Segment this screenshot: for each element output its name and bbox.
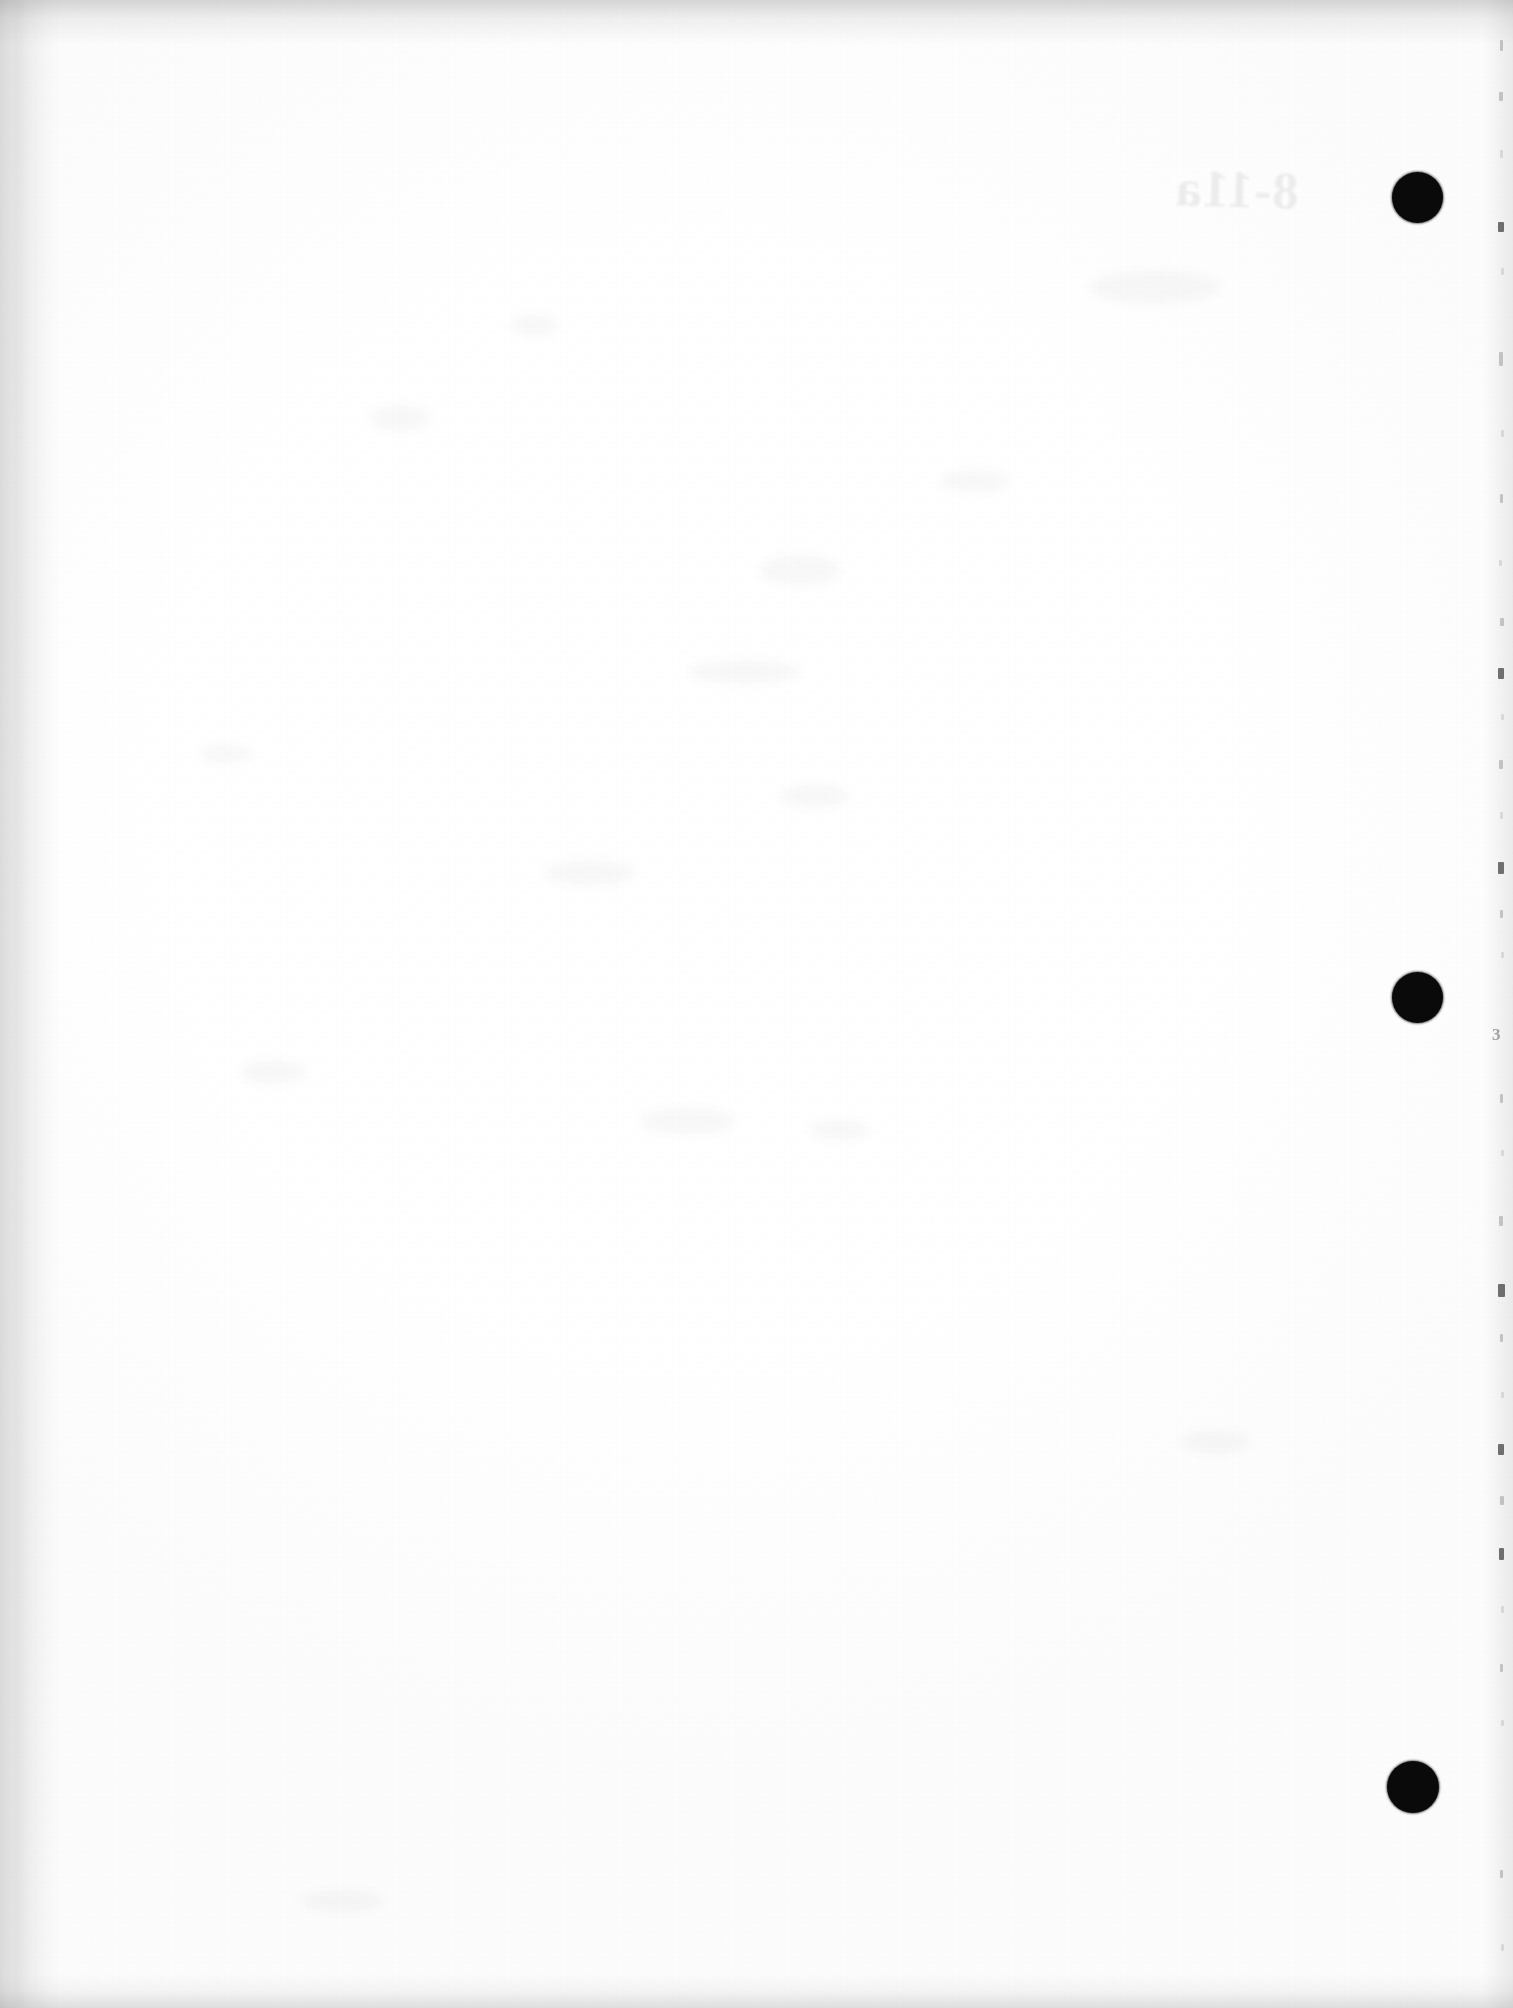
scan-speck-artifact xyxy=(1501,1606,1504,1613)
scan-speck-artifact xyxy=(1501,1392,1504,1398)
scan-speck-artifact xyxy=(1499,1548,1504,1560)
scan-speck-artifact xyxy=(1500,910,1503,918)
scan-speck-artifact xyxy=(1501,952,1504,958)
scan-speck-artifact xyxy=(1500,1870,1503,1878)
scan-speck-artifact xyxy=(1499,760,1503,769)
scan-speck-artifact xyxy=(1500,150,1503,158)
scan-speck-artifact xyxy=(1501,268,1504,275)
scan-speck-artifact xyxy=(1499,92,1503,101)
punch-mark-top xyxy=(1392,172,1443,223)
scan-speck-artifact xyxy=(1501,1150,1504,1156)
scan-speck-artifact xyxy=(1499,560,1502,566)
scan-speck-artifact xyxy=(1501,714,1504,720)
scanned-page: 8-11a 3 xyxy=(0,0,1513,2008)
scan-speck-artifact xyxy=(1501,1720,1504,1726)
scan-speck-artifact xyxy=(1501,1944,1504,1951)
scan-speck-artifact xyxy=(1500,618,1504,626)
margin-page-number: 3 xyxy=(1492,1025,1501,1045)
scan-speck-artifact xyxy=(1499,1216,1503,1226)
scan-speck-artifact xyxy=(1500,494,1503,503)
scan-speck-artifact xyxy=(1498,222,1504,232)
scan-speck-artifact xyxy=(1500,1334,1503,1342)
scan-speck-artifact xyxy=(1500,40,1503,51)
scan-speck-artifact xyxy=(1499,352,1503,366)
scan-speck-artifact xyxy=(1501,430,1504,437)
scan-speck-artifact xyxy=(1500,1664,1503,1672)
scan-speck-artifact xyxy=(1500,812,1503,819)
punch-mark-middle xyxy=(1392,972,1443,1023)
scan-speck-artifact xyxy=(1498,862,1504,874)
scan-speck-artifact xyxy=(1500,1496,1504,1505)
punch-mark-bottom xyxy=(1387,1761,1439,1813)
scan-speck-artifact xyxy=(1500,1094,1503,1103)
scan-speck-artifact xyxy=(1498,1444,1504,1455)
paper-background xyxy=(0,0,1513,2008)
scan-speck-artifact xyxy=(1498,1284,1505,1297)
scan-speck-artifact xyxy=(1498,668,1504,679)
